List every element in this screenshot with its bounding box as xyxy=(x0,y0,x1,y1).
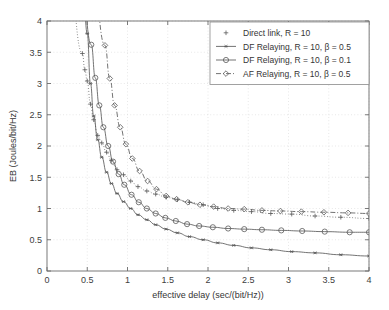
marker-asterisk xyxy=(100,156,104,159)
marker-asterisk xyxy=(154,223,158,226)
y-tick-label: 3 xyxy=(37,79,42,89)
marker-diamond xyxy=(117,124,123,130)
marker-plus xyxy=(153,192,158,197)
chart-figure: 00.511.522.533.5400.511.522.533.54effect… xyxy=(0,0,389,310)
marker-asterisk xyxy=(129,207,133,210)
marker-asterisk xyxy=(164,228,168,231)
y-tick-label: 0.5 xyxy=(29,235,42,245)
marker-plus xyxy=(99,141,104,146)
x-tick-label: 2.5 xyxy=(242,275,255,285)
legend-label-1: DF Relaying, R = 10, β = 0.5 xyxy=(243,42,351,52)
marker-asterisk xyxy=(122,200,126,203)
marker-diamond xyxy=(107,76,113,82)
chart-legend[interactable]: Direct link, R = 10DF Relaying, R = 10, … xyxy=(210,22,369,84)
marker-plus xyxy=(289,212,294,217)
marker-plus xyxy=(83,67,88,72)
y-tick-label: 2.5 xyxy=(29,110,42,120)
y-tick-label: 3.5 xyxy=(29,48,42,58)
legend-label-3: AF Relaying, R = 10, β = 0.5 xyxy=(243,69,351,79)
x-tick-label: 0.5 xyxy=(81,275,94,285)
marker-asterisk xyxy=(145,218,149,221)
marker-asterisk xyxy=(96,138,100,141)
marker-plus xyxy=(80,51,85,56)
y-tick-label: 1 xyxy=(37,204,42,214)
marker-plus xyxy=(128,179,133,184)
x-tick-label: 2 xyxy=(205,275,210,285)
x-tick-label: 1.5 xyxy=(161,275,174,285)
marker-asterisk xyxy=(105,171,109,174)
marker-asterisk xyxy=(313,252,317,255)
y-tick-label: 2 xyxy=(37,141,42,151)
marker-asterisk xyxy=(250,247,254,250)
marker-asterisk xyxy=(115,192,119,195)
marker-asterisk xyxy=(92,115,96,118)
x-tick-label: 4 xyxy=(366,275,371,285)
marker-asterisk xyxy=(136,213,140,216)
marker-asterisk xyxy=(201,238,205,241)
x-tick-label: 1 xyxy=(125,275,130,285)
x-tick-label: 3.5 xyxy=(322,275,335,285)
marker-plus xyxy=(121,172,126,177)
legend-label-0: Direct link, R = 10 xyxy=(243,28,311,38)
legend-label-2: DF Relaying, R = 10, β = 0.1 xyxy=(243,55,351,65)
marker-plus xyxy=(85,79,90,84)
marker-asterisk xyxy=(89,82,93,85)
marker-asterisk xyxy=(188,235,192,238)
marker-plus xyxy=(136,184,141,189)
marker-plus xyxy=(339,215,344,220)
marker-asterisk xyxy=(290,250,294,253)
y-tick-label: 1.5 xyxy=(29,173,42,183)
marker-diamond xyxy=(145,178,151,184)
marker-asterisk xyxy=(110,182,114,185)
x-tick-label: 0 xyxy=(44,275,49,285)
x-tick-label: 3 xyxy=(286,275,291,285)
y-tick-label: 0 xyxy=(37,266,42,276)
y-tick-label: 4 xyxy=(37,16,42,26)
marker-plus xyxy=(145,189,150,194)
marker-asterisk xyxy=(339,253,343,256)
line-chart: 00.511.522.533.5400.511.522.533.54effect… xyxy=(0,0,389,310)
marker-asterisk xyxy=(232,244,236,247)
marker-plus xyxy=(313,214,318,219)
marker-asterisk xyxy=(269,248,273,251)
x-axis-title: effective delay (sec/(bit/Hz)) xyxy=(152,290,263,300)
marker-asterisk xyxy=(216,242,220,245)
marker-asterisk xyxy=(176,232,180,235)
marker-plus xyxy=(268,211,273,216)
y-axis-title: EB (Joules/bit/Hz) xyxy=(8,110,18,182)
